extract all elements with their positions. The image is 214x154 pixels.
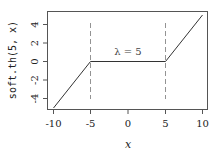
- x-tick-label: 0: [125, 118, 131, 129]
- y-tick-label: -2: [29, 75, 40, 85]
- x-tick-label: 10: [196, 118, 209, 129]
- y-tick-label: 0: [29, 58, 40, 64]
- x-tick-label: -5: [86, 118, 96, 129]
- y-axis-ticks: [43, 25, 48, 99]
- y-tick-label: 2: [29, 40, 40, 46]
- x-axis-ticks: [54, 110, 203, 115]
- lambda-annotation: λ = 5: [114, 46, 141, 57]
- y-tick-label: -4: [29, 94, 40, 104]
- x-axis-label: x: [125, 138, 132, 151]
- y-axis-label: soft.th(5, x): [7, 21, 18, 99]
- x-tick-label: -10: [45, 118, 61, 129]
- x-tick-label: 5: [162, 118, 168, 129]
- soft-threshold-chart: λ = 5 -10 -5 0 5 10 4 2 0 -2 -4 soft.th(…: [0, 0, 214, 154]
- plot-frame: [48, 12, 208, 110]
- soft-threshold-line: [54, 15, 203, 108]
- y-tick-label: 4: [29, 21, 40, 27]
